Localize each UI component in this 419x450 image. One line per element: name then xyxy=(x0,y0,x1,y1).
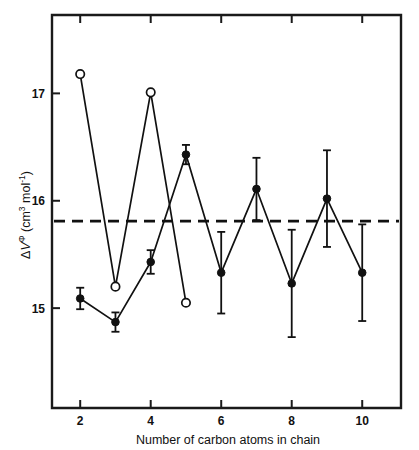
data-point-filled-circles-3 xyxy=(112,318,120,326)
x-axis-title: Number of carbon atoms in chain xyxy=(136,433,320,447)
ylabel-delta: Δ xyxy=(19,251,33,259)
data-point-open-circles-3 xyxy=(111,282,119,290)
y-tick-label-17: 17 xyxy=(32,87,46,101)
data-point-open-circles-4 xyxy=(147,88,155,96)
data-point-open-circles-2 xyxy=(76,70,84,78)
svg-text:ΔVΦ (cm3 mol-1): ΔVΦ (cm3 mol-1) xyxy=(17,171,33,259)
plot-frame xyxy=(52,15,401,408)
series-line-open-circles xyxy=(80,74,186,303)
ylabel-units-prefix: (cm xyxy=(19,211,33,235)
data-point-filled-circles-4 xyxy=(147,258,155,266)
y-tick-labels: 151617 xyxy=(32,87,46,316)
chart-canvas: 151617 246810 ΔVΦ (cm3 mol-1) Number of … xyxy=(0,0,419,450)
ylabel-units-mid: mol xyxy=(19,183,33,207)
y-tick-label-15: 15 xyxy=(32,302,46,316)
xlabel-text: Number of carbon atoms in chain xyxy=(136,433,320,447)
y-axis-title: ΔVΦ (cm3 mol-1) xyxy=(17,171,33,259)
x-tick-labels: 246810 xyxy=(77,414,369,428)
ylabel-units-suffix: ) xyxy=(19,171,33,175)
figure-container: 151617 246810 ΔVΦ (cm3 mol-1) Number of … xyxy=(0,0,419,450)
data-point-filled-circles-6 xyxy=(217,269,225,277)
data-point-filled-circles-5 xyxy=(182,151,190,159)
data-point-open-circles-5 xyxy=(182,299,190,307)
error-bars-group xyxy=(76,145,366,337)
x-tick-label-6: 6 xyxy=(218,414,225,428)
x-axis-ticks xyxy=(80,15,362,408)
data-point-filled-circles-7 xyxy=(253,185,261,193)
x-tick-label-4: 4 xyxy=(147,414,154,428)
x-tick-label-8: 8 xyxy=(288,414,295,428)
x-tick-label-10: 10 xyxy=(356,414,370,428)
data-point-filled-circles-10 xyxy=(358,269,366,277)
data-point-filled-circles-2 xyxy=(76,295,84,303)
data-point-filled-circles-8 xyxy=(288,280,296,288)
y-tick-label-16: 16 xyxy=(32,194,46,208)
data-point-filled-circles-9 xyxy=(323,195,331,203)
x-tick-label-2: 2 xyxy=(77,414,84,428)
